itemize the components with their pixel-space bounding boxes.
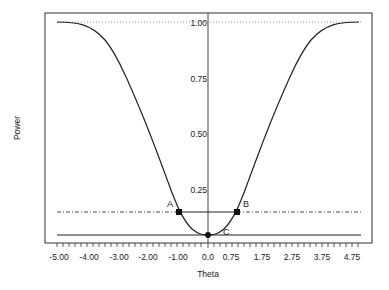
point-c-label: C: [223, 227, 230, 237]
x-tick-label: -4.00: [79, 252, 99, 262]
point-c-marker: [205, 232, 211, 238]
x-tick-label: -5.00: [49, 252, 69, 262]
x-tick-label: 4.75: [344, 252, 361, 262]
point-b-marker: [234, 209, 240, 215]
power-chart: A B C 1.00 0.75 0.50 0.25 -5.00 -4.0: [0, 0, 389, 290]
y-tick-label: 0.50: [190, 129, 207, 139]
y-tick-label: 0.75: [190, 74, 207, 84]
point-a-label: A: [167, 199, 173, 209]
x-axis-title: Theta: [197, 269, 219, 279]
point-b-label: B: [243, 199, 249, 209]
x-tick-label: 0.75: [223, 252, 240, 262]
y-tick-label: 0.25: [190, 185, 207, 195]
x-tick-label: -2.00: [138, 252, 158, 262]
x-tick-label: -3.00: [109, 252, 129, 262]
x-tick-label: 3.75: [314, 252, 331, 262]
x-tick-label: 1.75: [254, 252, 271, 262]
x-tick-label: 0.0: [202, 252, 214, 262]
y-tick-label: 1.00: [190, 18, 207, 28]
x-ticks: [57, 243, 358, 248]
x-tick-label: -1.00: [168, 252, 188, 262]
x-tick-label: 2.75: [284, 252, 301, 262]
point-a-marker: [176, 209, 182, 215]
y-axis-title: Power: [12, 116, 22, 140]
